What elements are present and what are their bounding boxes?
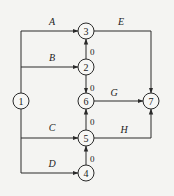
node-7-label: 7 bbox=[149, 96, 154, 107]
dummy-2-6-label: 0 bbox=[90, 83, 95, 93]
node-4-label: 4 bbox=[84, 168, 89, 179]
node-2-label: 2 bbox=[84, 62, 89, 73]
edge-b-label: B bbox=[49, 52, 55, 63]
node-6-label: 6 bbox=[84, 96, 89, 107]
edge-d-label: D bbox=[47, 158, 56, 169]
dummy-5-6-label: 0 bbox=[90, 117, 95, 127]
node-5-label: 5 bbox=[84, 133, 89, 144]
network-diagram: 1 2 3 4 5 6 7 A B C D E G H 0 0 0 0 bbox=[0, 0, 174, 196]
dummy-2-3-label: 0 bbox=[90, 47, 95, 57]
node-3-label: 3 bbox=[84, 26, 89, 37]
edge-g-label: G bbox=[110, 87, 117, 98]
dummy-4-5-label: 0 bbox=[90, 154, 95, 164]
edge-e-label: E bbox=[117, 16, 124, 27]
edge-a-label: A bbox=[48, 16, 56, 27]
edge-h-label: H bbox=[119, 124, 128, 135]
edge-e bbox=[94, 31, 151, 93]
node-1-label: 1 bbox=[19, 96, 24, 107]
edge-c-label: C bbox=[49, 122, 56, 133]
